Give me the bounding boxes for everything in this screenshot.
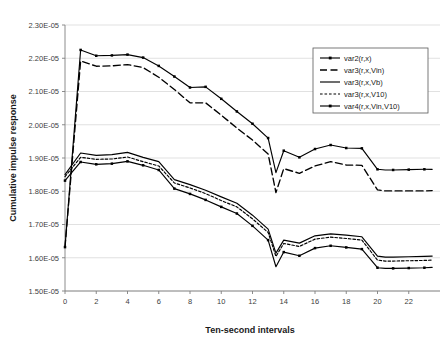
x-axis-tick-labels: 0246810121416182022: [63, 291, 413, 306]
series-marker-4: [361, 248, 364, 251]
x-tick-label: 8: [188, 297, 192, 306]
series-marker-0: [204, 86, 207, 89]
series-marker-0: [189, 86, 192, 89]
x-tick-label: 2: [94, 297, 98, 306]
y-tick-label: 1.90E-05: [29, 154, 59, 163]
series-marker-0: [408, 168, 411, 171]
y-tick-label: 2.20E-05: [29, 54, 59, 63]
legend-marker-4: [329, 105, 332, 108]
series-line-4: [65, 161, 432, 268]
series-marker-0: [251, 123, 254, 126]
x-tick-label: 10: [217, 297, 225, 306]
series-marker-0: [361, 147, 364, 150]
y-tick-label: 2.10E-05: [29, 87, 59, 96]
x-tick-label: 0: [63, 297, 67, 306]
series-marker-4: [173, 187, 176, 190]
x-tick-label: 20: [373, 297, 381, 306]
series-marker-0: [79, 49, 82, 52]
series-marker-4: [142, 164, 145, 167]
series-marker-4: [79, 161, 82, 164]
y-axis-title: Cumulative impulse response: [8, 94, 18, 222]
series-marker-4: [220, 206, 223, 209]
impulse-response-line-chart: 1.50E-051.60E-051.70E-051.80E-051.90E-05…: [0, 0, 448, 341]
series-marker-0: [220, 98, 223, 101]
series-marker-0: [314, 148, 317, 151]
series-marker-4: [408, 267, 411, 270]
series-marker-0: [173, 75, 176, 78]
series-marker-4: [64, 179, 67, 182]
x-tick-label: 16: [311, 297, 319, 306]
series-marker-0: [423, 168, 426, 171]
series-marker-0: [95, 55, 98, 58]
series-marker-4: [251, 225, 254, 228]
series-marker-0: [142, 56, 145, 59]
legend-item-label-1: var3(r,x,Vin): [344, 66, 385, 75]
series-marker-4: [111, 162, 114, 165]
x-tick-label: 18: [342, 297, 350, 306]
series-marker-4: [95, 163, 98, 166]
series-marker-4: [392, 267, 395, 270]
series-marker-0: [298, 156, 301, 159]
series-marker-4: [189, 193, 192, 196]
series-marker-4: [345, 246, 348, 249]
series-marker-4: [236, 212, 239, 215]
series-marker-4: [267, 239, 270, 242]
series-marker-4: [298, 255, 301, 258]
y-tick-label: 1.60E-05: [29, 254, 59, 263]
series-marker-4: [314, 247, 317, 250]
series-marker-0: [126, 53, 129, 56]
legend-item-label-3: var3(r,x,V10): [344, 90, 387, 99]
y-axis-tick-labels: 1.50E-051.60E-051.70E-051.80E-051.90E-05…: [29, 21, 65, 296]
legend-marker-0: [329, 57, 332, 60]
legend: var2(r,x)var3(r,x,Vin)var3(r,x,Vb)var3(r…: [313, 48, 428, 113]
series-marker-0: [329, 144, 332, 147]
series-marker-4: [376, 266, 379, 269]
x-tick-label: 4: [125, 297, 129, 306]
series-marker-4: [283, 251, 286, 254]
series-marker-4: [204, 199, 207, 202]
y-tick-label: 1.50E-05: [29, 287, 59, 296]
chart-container: 1.50E-051.60E-051.70E-051.80E-051.90E-05…: [0, 0, 448, 341]
legend-item-label-2: var3(r,x,Vb): [344, 78, 383, 87]
series-marker-0: [283, 149, 286, 152]
series-marker-0: [267, 137, 270, 140]
series-marker-0: [345, 147, 348, 150]
y-tick-label: 2.30E-05: [29, 21, 59, 30]
series-marker-0: [236, 110, 239, 113]
y-tick-label: 1.70E-05: [29, 220, 59, 229]
x-axis-title: Ten-second intervals: [205, 325, 294, 335]
x-tick-label: 22: [405, 297, 413, 306]
y-tick-label: 2.00E-05: [29, 121, 59, 130]
x-tick-label: 12: [248, 297, 256, 306]
series-marker-4: [329, 245, 332, 248]
series-marker-4: [126, 160, 129, 163]
x-tick-label: 6: [157, 297, 161, 306]
series-marker-0: [158, 65, 161, 68]
legend-item-label-0: var2(r,x): [344, 54, 372, 63]
series-marker-0: [392, 169, 395, 172]
series-line-3: [65, 157, 432, 261]
series-marker-0: [376, 168, 379, 171]
y-tick-label: 1.80E-05: [29, 187, 59, 196]
legend-item-label-4: var4(r,x,Vin,V10): [344, 102, 400, 111]
series-marker-0: [111, 54, 114, 57]
x-tick-label: 14: [280, 297, 288, 306]
series-marker-4: [158, 169, 161, 172]
series-marker-4: [423, 266, 426, 269]
